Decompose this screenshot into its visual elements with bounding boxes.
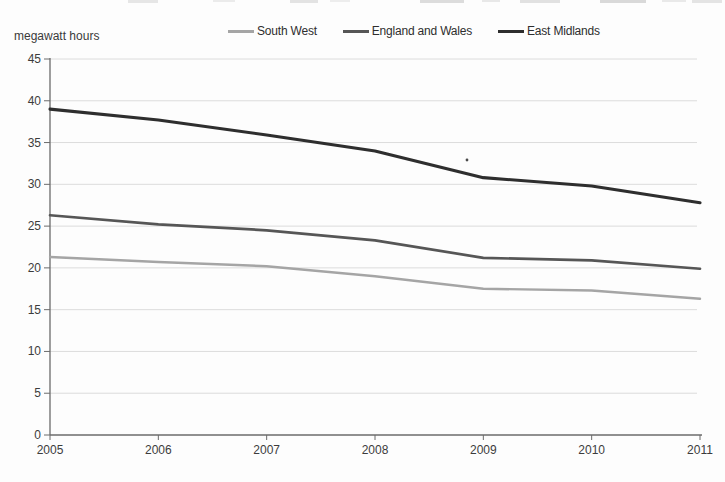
gridlines <box>50 59 697 393</box>
y-tick-label: 10 <box>28 344 42 358</box>
series-line-south-west <box>50 257 700 299</box>
y-tick-label: 30 <box>28 177 42 191</box>
y-tick-label: 5 <box>34 386 41 400</box>
y-tick-label: 35 <box>28 136 42 150</box>
y-tick-label: 20 <box>28 261 42 275</box>
y-tick-label: 45 <box>28 52 42 66</box>
axes <box>50 58 702 435</box>
y-tick-label: 40 <box>28 94 42 108</box>
y-tick-label: 15 <box>28 303 42 317</box>
y-axis-ticks: 051015202530354045 <box>28 52 50 442</box>
series-line-east-midlands <box>50 109 700 203</box>
x-tick-label: 2008 <box>362 443 389 457</box>
x-tick-label: 2007 <box>253 443 280 457</box>
x-tick-label: 2009 <box>470 443 497 457</box>
scan-speck <box>466 159 469 162</box>
x-tick-label: 2011 <box>687 443 713 457</box>
line-chart: 0510152025303540452005200620072008200920… <box>0 0 725 482</box>
x-tick-label: 2010 <box>578 443 605 457</box>
x-tick-label: 2006 <box>145 443 172 457</box>
y-tick-label: 0 <box>34 428 41 442</box>
x-tick-label: 2005 <box>37 443 64 457</box>
chart-page: megawatt hours South West England and Wa… <box>0 0 725 482</box>
x-axis-ticks: 2005200620072008200920102011 <box>37 435 714 457</box>
y-tick-label: 25 <box>28 219 42 233</box>
